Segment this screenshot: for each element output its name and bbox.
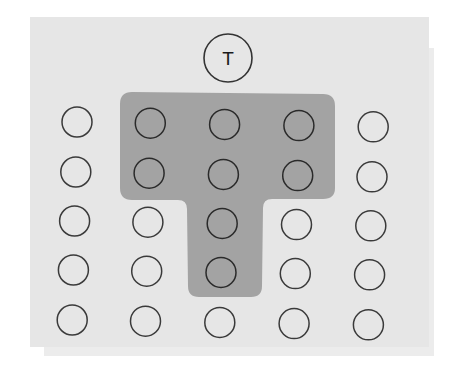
seat (279, 309, 309, 339)
seat (131, 306, 161, 336)
teacher-label: T (222, 48, 234, 69)
seat (60, 206, 90, 236)
t-shape-highlight (120, 92, 335, 297)
seating-diagram: T (0, 0, 449, 375)
seat (353, 310, 383, 340)
seat (356, 211, 386, 241)
seat (355, 260, 385, 290)
seat (61, 157, 91, 187)
seat (280, 259, 310, 289)
seat (62, 107, 92, 137)
seat (132, 256, 162, 286)
seat (358, 112, 388, 142)
seat (357, 162, 387, 192)
seat (133, 207, 163, 237)
seat (282, 210, 312, 240)
seat (205, 307, 235, 337)
seat (58, 255, 88, 285)
teacher-seat: T (204, 34, 252, 82)
seat (57, 305, 87, 335)
